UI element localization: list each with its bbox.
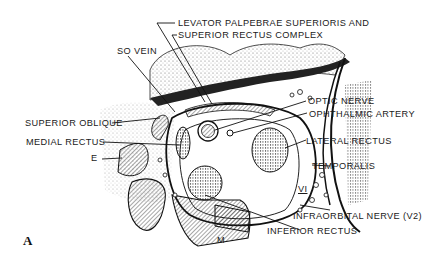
label-e: E: [91, 153, 98, 163]
label-vi: VI: [298, 184, 307, 194]
label-m: M: [217, 235, 225, 245]
label-optic-nerve: OPTIC NERVE: [308, 96, 375, 106]
label-superior-oblique: SUPERIOR OBLIQUE: [25, 118, 123, 128]
label-ophthalmic-artery: OPHTHALMIC ARTERY: [309, 109, 415, 119]
label-levator-line2: SUPERIOR RECTUS COMPLEX: [178, 30, 323, 40]
label-temporalis: TEMPORALIS: [312, 161, 375, 171]
anatomical-figure: LEVATOR PALPEBRAE SUPERIORIS AND SUPERIO…: [0, 0, 443, 264]
label-lateral-rectus: LATERAL RECTUS: [306, 136, 392, 146]
panel-letter: A: [23, 233, 32, 249]
label-so-vein: SO VEIN: [117, 46, 157, 56]
label-infraorbital-nerve: INFRAORBITAL NERVE (V2): [293, 211, 422, 221]
label-medial-rectus: MEDIAL RECTUS: [26, 137, 105, 147]
label-inferior-rectus: INFERIOR RECTUS: [267, 226, 357, 236]
label-levator-line1: LEVATOR PALPEBRAE SUPERIORIS AND: [178, 18, 369, 28]
